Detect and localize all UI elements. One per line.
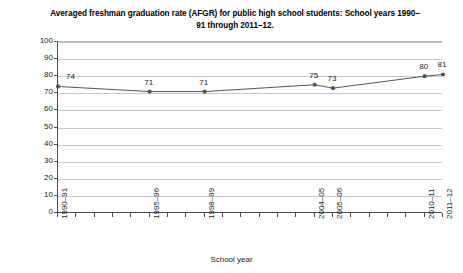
- data-point-marker: [331, 86, 335, 90]
- data-point-marker: [423, 74, 427, 78]
- x-tick-mark: [277, 213, 278, 217]
- x-tick-mark: [369, 213, 370, 217]
- data-point-marker: [313, 83, 317, 87]
- x-tick-mark: [149, 213, 150, 217]
- y-tick-label: 70: [27, 88, 53, 96]
- x-tick-mark: [240, 213, 241, 217]
- chart-title: Averaged freshman graduation rate (AFGR)…: [50, 8, 420, 31]
- y-tick-mark: [54, 92, 57, 93]
- x-tick-label: 2005–06: [335, 188, 344, 219]
- y-tick-mark: [54, 41, 57, 42]
- x-tick-label: 2004–05: [317, 188, 326, 219]
- y-tick-label: 10: [27, 191, 53, 199]
- y-tick-label: 50: [27, 123, 53, 131]
- x-tick-label: 1998–99: [207, 188, 216, 219]
- chart-container: Averaged freshman graduation rate (AFGR)…: [0, 0, 463, 273]
- x-tick-mark: [295, 213, 296, 217]
- y-tick-mark: [54, 58, 57, 59]
- y-tick-mark: [54, 178, 57, 179]
- y-tick-label: 30: [27, 157, 53, 165]
- x-tick-label: 1995–96: [152, 188, 161, 219]
- y-tick-label: 20: [27, 174, 53, 182]
- series-line: [58, 74, 443, 91]
- x-tick-mark: [167, 213, 168, 217]
- x-tick-mark: [387, 213, 388, 217]
- x-tick-mark: [314, 213, 315, 217]
- y-tick-label: 0: [27, 208, 53, 216]
- data-point-marker: [441, 72, 445, 76]
- y-tick-label: 80: [27, 71, 53, 79]
- x-tick-label: 2010–11: [427, 188, 436, 219]
- data-point-marker: [203, 89, 207, 93]
- x-axis-title: School year: [0, 255, 463, 264]
- x-tick-mark: [130, 213, 131, 217]
- data-point-label: 81: [438, 60, 447, 69]
- x-tick-label: 2011–12: [445, 188, 454, 219]
- x-tick-mark: [185, 213, 186, 217]
- x-tick-mark: [94, 213, 95, 217]
- y-tick-mark: [54, 195, 57, 196]
- y-tick-mark: [54, 127, 57, 128]
- x-tick-mark: [222, 213, 223, 217]
- x-tick-mark: [424, 213, 425, 217]
- x-tick-mark: [57, 213, 58, 217]
- x-axis-line: [57, 212, 442, 213]
- data-point-label: 71: [144, 78, 153, 87]
- data-series-afgr: [58, 42, 443, 213]
- y-tick-label: 60: [27, 105, 53, 113]
- x-tick-mark: [442, 213, 443, 217]
- y-tick-label: 90: [27, 54, 53, 62]
- x-tick-mark: [259, 213, 260, 217]
- data-point-label: 71: [199, 78, 208, 87]
- y-tick-label: 100: [27, 37, 53, 45]
- data-point-label: 74: [66, 72, 75, 81]
- x-tick-mark: [332, 213, 333, 217]
- y-tick-mark: [54, 144, 57, 145]
- data-point-marker: [148, 89, 152, 93]
- x-tick-label: 1990–91: [60, 188, 69, 219]
- data-point-label: 75: [309, 71, 318, 80]
- data-point-marker: [56, 84, 60, 88]
- plot-area: [57, 41, 442, 212]
- data-point-label: 73: [328, 74, 337, 83]
- y-tick-mark: [54, 161, 57, 162]
- y-tick-label: 40: [27, 140, 53, 148]
- y-tick-mark: [54, 75, 57, 76]
- x-tick-mark: [112, 213, 113, 217]
- y-tick-mark: [54, 109, 57, 110]
- x-tick-mark: [405, 213, 406, 217]
- x-tick-mark: [204, 213, 205, 217]
- data-point-label: 80: [419, 62, 428, 71]
- x-tick-mark: [350, 213, 351, 217]
- x-tick-mark: [75, 213, 76, 217]
